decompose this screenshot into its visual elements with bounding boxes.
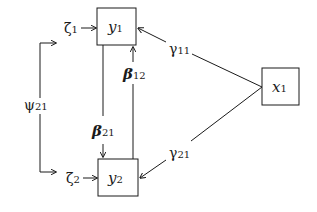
gamma21-line-right (191, 87, 262, 141)
disturbance-zeta1: ζ1 (64, 20, 96, 36)
gamma11-label: γ11 (169, 41, 190, 57)
node-y2: y2 (98, 159, 138, 196)
zeta1-label: ζ1 (64, 20, 78, 36)
gamma11-arrow (138, 28, 166, 42)
psi21-label: ψ21 (24, 97, 48, 113)
path-gamma21: γ21 (140, 87, 262, 178)
gamma11-line-right (192, 54, 262, 87)
beta21-label: β21 (91, 122, 115, 140)
node-y1: y1 (97, 8, 136, 45)
path-gamma11: γ11 (138, 28, 262, 87)
node-x1-label: x1 (272, 78, 287, 96)
node-y2-label: y2 (107, 169, 123, 187)
path-beta21: β21 (91, 45, 115, 157)
node-y1-label: y1 (107, 18, 123, 36)
node-x1: x1 (262, 68, 299, 105)
psi21-upper-bracket (40, 43, 56, 98)
disturbance-zeta2: ζ2 (66, 170, 97, 186)
zeta2-label: ζ2 (66, 170, 80, 186)
psi21-lower-bracket (40, 114, 56, 172)
covariance-psi21: ψ21 (24, 43, 56, 172)
gamma21-arrow (140, 160, 166, 178)
beta12-label: β12 (122, 65, 146, 83)
path-beta12: β12 (122, 47, 146, 159)
path-diagram: y1 y2 x1 ζ1 ζ2 ψ21 β21 β12 γ11 (0, 0, 317, 212)
gamma21-label: γ21 (169, 145, 190, 161)
